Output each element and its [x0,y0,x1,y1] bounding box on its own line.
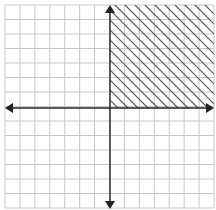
arrow-right-icon [206,103,214,113]
coordinate-plane [0,0,216,210]
arrow-up-icon [105,5,115,13]
arrow-left-icon [5,103,13,113]
hatch-line [100,0,216,4]
